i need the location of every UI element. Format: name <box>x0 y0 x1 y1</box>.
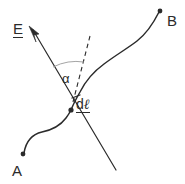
point-b-dot <box>158 9 163 14</box>
tangent-dashed-line <box>73 36 90 102</box>
field-vector-arrowhead <box>29 26 39 42</box>
path-element-d-char: d <box>76 96 84 112</box>
diagram-svg <box>0 0 185 184</box>
path-curve-a-to-b <box>24 12 159 153</box>
point-b-label: B <box>167 13 177 28</box>
point-a-dot <box>21 152 26 157</box>
angle-arc <box>53 61 84 67</box>
angle-alpha-label: α <box>62 72 70 85</box>
figure-canvas: E B A α dℓ <box>0 0 185 184</box>
field-vector-label: E <box>13 21 23 38</box>
field-vector-line <box>33 30 116 170</box>
point-a-label: A <box>12 163 22 178</box>
path-element-l-char: ℓ <box>84 96 90 112</box>
intersection-point-dot <box>68 107 73 112</box>
path-element-vector-label: dℓ <box>76 97 90 113</box>
